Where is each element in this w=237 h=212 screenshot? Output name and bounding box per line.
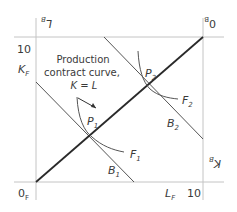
k-f-label: KF <box>18 63 30 78</box>
l-b-label: LB <box>41 15 52 30</box>
point-p1-label: P1 <box>87 115 98 130</box>
arrow-head-icon <box>91 103 96 108</box>
isoquant-f2-label: F2 <box>182 94 193 109</box>
isoquant-f1 <box>77 97 124 152</box>
edgeworth-box-diagram: 0B LB KB 10 KF 0F LF 10 Production contr… <box>0 0 237 212</box>
contract-curve-label-line1: Production <box>56 54 109 65</box>
isoquant-b1 <box>36 82 134 182</box>
contract-curve-label-line3: K = L <box>71 80 98 91</box>
k-f-max-tick: 10 <box>17 43 31 56</box>
isoquant-b2-label: B2 <box>167 117 180 132</box>
l-f-max-tick: 10 <box>187 187 201 200</box>
point-p2-label: P2 <box>145 67 157 82</box>
contract-curve-label-line2: contract curve, <box>44 67 120 78</box>
isoquant-f1-label: F1 <box>130 148 141 163</box>
origin-b-label: 0B <box>204 15 216 30</box>
origin-f-label: 0F <box>18 187 29 202</box>
k-b-label: KB <box>209 155 221 170</box>
isoquant-b2 <box>104 37 203 139</box>
l-f-label: LF <box>165 187 176 202</box>
